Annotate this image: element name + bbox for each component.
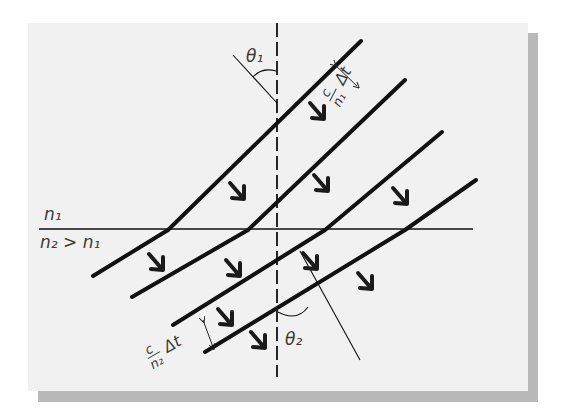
arrow-icon — [393, 188, 407, 204]
medium-n1-label: n₁ — [44, 204, 62, 224]
theta1-construction: θ₁ — [233, 46, 277, 103]
arrow-icon — [251, 332, 265, 348]
spacing-bottom-dt: Δt — [158, 331, 185, 357]
wavefronts — [93, 41, 476, 352]
spacing-bottom-annotation: c n₂ Δt — [139, 320, 213, 372]
arrow-icon — [358, 273, 372, 289]
arrow-icon — [230, 183, 244, 199]
spacing-top-annotation: c n₁ Δt — [316, 61, 361, 109]
arrow-icon — [149, 254, 163, 270]
refraction-diagram: θ₁ θ₂ n₁ n₂ > n₁ c n₁ Δt c n₂ Δt — [0, 0, 564, 419]
wavefront-4 — [205, 180, 476, 352]
theta1-label: θ₁ — [246, 46, 263, 66]
arrow-icon — [218, 309, 232, 325]
propagation-arrows — [149, 103, 407, 348]
medium-n2-label: n₂ > n₁ — [40, 232, 100, 252]
theta2-label: θ₂ — [285, 329, 302, 349]
arrow-icon — [310, 103, 324, 119]
arrow-icon — [314, 175, 328, 191]
arrow-icon — [226, 260, 240, 276]
